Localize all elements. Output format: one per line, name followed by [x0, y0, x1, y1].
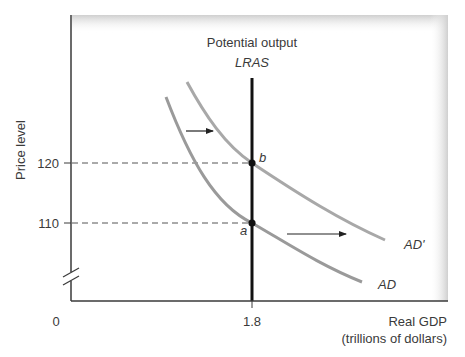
x-origin-label: 0	[52, 314, 59, 329]
lras-label: LRAS	[235, 55, 269, 70]
x-axis-title-line2: (trillions of dollars)	[342, 331, 447, 346]
ad-shift-chart: Level, of inflation Potential output LRA…	[0, 0, 465, 357]
point-b	[248, 159, 255, 166]
y-tick-label-120: 120	[37, 156, 59, 171]
point-b-label: b	[259, 150, 266, 165]
potential-output-label: Potential output	[207, 35, 298, 50]
ad-prime-label: AD'	[403, 237, 425, 252]
y-tick-label-110: 110	[38, 216, 59, 231]
y-axis-title: Price level	[13, 120, 28, 180]
ad-label: AD	[377, 277, 396, 292]
caption-partial: Level, of inflation	[14, 0, 112, 1]
point-a	[248, 219, 255, 226]
x-tick-label-1-8: 1.8	[243, 314, 261, 329]
x-axis-title-line1: Real GDP	[388, 314, 447, 329]
point-a-label: a	[240, 223, 247, 238]
